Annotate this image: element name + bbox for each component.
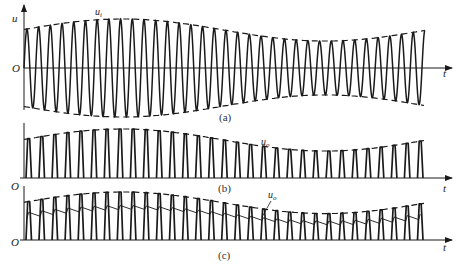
panel-a-origin-label: O [12, 63, 20, 74]
rectified-pulses [26, 129, 423, 178]
panel-b-t-label: t [443, 183, 446, 194]
panel-b-signal-label: uo [261, 137, 270, 149]
panel-c-filtered-output [20, 186, 452, 240]
panel-a-caption: (a) [219, 112, 231, 123]
panel-c-t-label: t [443, 242, 446, 253]
envelope [24, 129, 424, 151]
panel-a-signal-label: ui [95, 7, 102, 19]
panel-a-y-axis-label: u [12, 13, 18, 24]
panel-c-signal-label: uo [268, 190, 277, 202]
panel-c-caption: (c) [218, 250, 230, 261]
panel-b-rectified-output [20, 123, 452, 178]
panel-c-origin-label: O [11, 237, 19, 248]
rectified-pulses [26, 192, 423, 240]
panel-a-t-label: t [443, 68, 446, 79]
panel-a-input-am-wave [24, 5, 452, 117]
am-detection-diagram [0, 0, 459, 269]
envelope [24, 192, 424, 214]
panel-b-origin-label: O [11, 181, 19, 192]
panel-b-caption: (b) [218, 183, 231, 194]
